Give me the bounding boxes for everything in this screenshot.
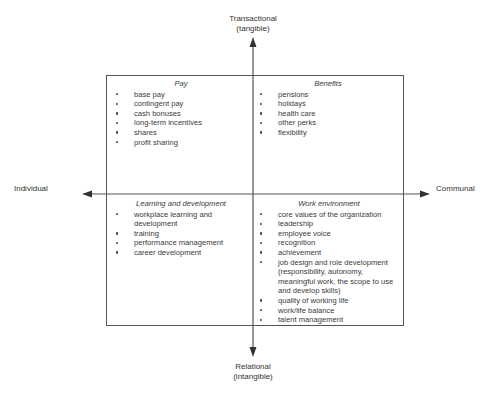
arrow-up-icon (250, 37, 257, 47)
list-item: training (112, 229, 250, 239)
list-item: talent management (256, 315, 402, 325)
list-item: base pay (112, 90, 250, 100)
quadrant-benefits: Benefits pensions holidays health care o… (256, 79, 400, 138)
quadrant-list: core values of the organization leadersh… (256, 210, 402, 325)
quadrant-title: Learning and development (112, 199, 250, 209)
list-item: holidays (256, 99, 400, 109)
list-item: work/life balance (256, 306, 402, 316)
arrow-down-icon (250, 347, 257, 357)
list-item: workplace learning and development (112, 210, 250, 229)
list-item: career development (112, 248, 250, 258)
quadrant-title: Work environment (256, 199, 402, 209)
list-item: recognition (256, 238, 402, 248)
list-item: profit sharing (112, 138, 250, 148)
quadrant-work-environment: Work environment core values of the orga… (256, 199, 402, 325)
quadrant-pay: Pay base pay contingent pay cash bonuses… (112, 79, 250, 147)
quadrant-list: pensions holidays health care other perk… (256, 90, 400, 138)
list-item: leadership (256, 219, 402, 229)
list-item: core values of the organization (256, 210, 402, 220)
list-item: health care (256, 109, 400, 119)
list-item: shares (112, 128, 250, 138)
list-item: flexibility (256, 128, 400, 138)
list-item: cash bonuses (112, 109, 250, 119)
list-item: achievement (256, 248, 402, 258)
quadrant-learning-development: Learning and development workplace learn… (112, 199, 250, 258)
quadrant-list: workplace learning and development train… (112, 210, 250, 258)
list-item: quality of working life (256, 296, 402, 306)
list-item: contingent pay (112, 99, 250, 109)
arrow-left-icon (82, 191, 92, 198)
list-item: job design and role development (respons… (256, 258, 402, 296)
list-item: long-term incentives (112, 118, 250, 128)
list-item: other perks (256, 118, 400, 128)
arrow-right-icon (420, 191, 430, 198)
list-item: employee voice (256, 229, 402, 239)
quadrant-title: Benefits (256, 79, 400, 89)
quadrant-list: base pay contingent pay cash bonuses lon… (112, 90, 250, 148)
list-item: pensions (256, 90, 400, 100)
quadrant-title: Pay (112, 79, 250, 89)
list-item: performance management (112, 238, 250, 248)
